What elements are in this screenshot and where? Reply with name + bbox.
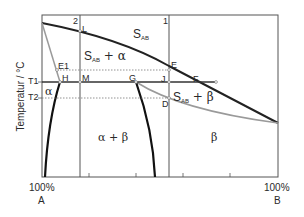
point-d-label: D xyxy=(162,100,169,109)
point-f-marker xyxy=(215,81,218,84)
region-alpha: α xyxy=(45,86,52,97)
point-j-marker xyxy=(168,81,171,84)
line-2-label: 2 xyxy=(73,17,78,26)
point-f-label: F xyxy=(193,75,199,84)
y-axis-label: Temperatur / °C xyxy=(15,57,26,137)
point-h-label: H xyxy=(62,74,69,83)
point-g-label: G xyxy=(129,74,136,83)
point-j-label: J xyxy=(161,75,166,84)
point-m-marker xyxy=(79,81,82,84)
point-e-marker xyxy=(168,69,171,72)
x-left-pct: 100% xyxy=(29,183,55,193)
y-tick-label-t1: T1 xyxy=(28,77,39,86)
point-h-marker xyxy=(59,81,62,84)
point-e1-label: E1 xyxy=(58,62,69,71)
point-l-label: L xyxy=(82,25,87,34)
plot-frame xyxy=(42,15,278,177)
x-right-pct: 100% xyxy=(264,183,290,193)
liquidus-line xyxy=(42,23,278,123)
region-liquid: SAB xyxy=(133,28,149,41)
region-alpha-beta: α + β xyxy=(98,132,128,143)
line-1-label: 1 xyxy=(163,17,168,26)
phase-diagram: Temperatur / °C T1 T2 2 1 L E1 H M G E J… xyxy=(0,0,304,217)
region-liquid-beta: SAB + β xyxy=(173,91,214,104)
x-left-component: A xyxy=(38,196,45,206)
point-e-label: E xyxy=(171,61,177,70)
solidus-alpha-line xyxy=(42,23,60,82)
region-liquid-alpha: SAB + α xyxy=(84,50,126,63)
solvus-beta-line xyxy=(136,82,155,177)
point-l-marker xyxy=(79,30,82,33)
point-m-label: M xyxy=(82,74,90,83)
y-tick-label-t2: T2 xyxy=(28,93,39,102)
x-right-component: B xyxy=(274,196,281,206)
region-beta: β xyxy=(211,132,217,143)
